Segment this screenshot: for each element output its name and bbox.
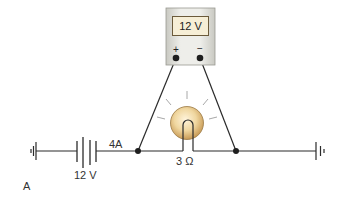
ground-symbol-left xyxy=(31,142,36,160)
voltmeter-terminal-negative xyxy=(197,55,204,62)
lamp-resistance-label: 3 Ω xyxy=(176,155,193,167)
ground-symbol-right xyxy=(316,142,324,160)
panel-label: A xyxy=(23,180,30,192)
negative-terminal-label: − xyxy=(197,44,203,54)
current-label: 4A xyxy=(109,138,122,150)
voltmeter-reading: 12 V xyxy=(172,16,209,36)
junction-dot-left xyxy=(135,148,141,154)
battery-voltage-label: 12 V xyxy=(74,169,97,181)
lamp-bulb-icon xyxy=(171,107,204,152)
voltmeter-terminal-positive xyxy=(173,55,180,62)
junction-dot-right xyxy=(233,148,239,154)
voltmeter-lead-negative xyxy=(200,58,236,151)
battery-symbol xyxy=(77,137,96,168)
positive-terminal-label: + xyxy=(173,45,179,55)
